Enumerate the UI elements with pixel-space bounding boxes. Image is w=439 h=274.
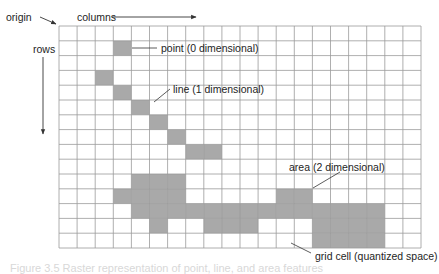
- line-label: line (1 dimensional): [173, 84, 264, 95]
- area-cell: [349, 233, 367, 248]
- line-cell: [150, 115, 168, 130]
- area-cell: [294, 189, 312, 204]
- area-cell: [312, 233, 330, 248]
- area-cell: [349, 204, 367, 219]
- area-cell: [204, 204, 222, 219]
- area-cell: [367, 233, 385, 248]
- point-label: point (0 dimensional): [161, 43, 258, 54]
- area-cell: [168, 174, 186, 189]
- columns-label: columns: [77, 12, 116, 23]
- area-cell: [331, 233, 349, 248]
- origin-arrow-icon: [40, 17, 56, 24]
- rows-label: rows: [33, 44, 55, 55]
- grid-cell-label: grid cell (quantized space): [315, 251, 438, 262]
- area-cell: [349, 218, 367, 233]
- area-cell: [150, 189, 168, 204]
- point-cell: [113, 41, 131, 56]
- area-cell: [150, 174, 168, 189]
- line-cell: [95, 70, 113, 85]
- area-cell: [204, 218, 222, 233]
- area-cell: [222, 204, 240, 219]
- area-cell: [367, 204, 385, 219]
- area-cell: [222, 218, 240, 233]
- area-cell: [331, 204, 349, 219]
- area-cell: [367, 218, 385, 233]
- area-cell: [150, 204, 168, 219]
- grid-lines: [59, 26, 421, 248]
- area-cell: [294, 204, 312, 219]
- line-cell: [131, 100, 149, 115]
- area-cell: [131, 174, 149, 189]
- area-cell: [240, 218, 258, 233]
- area-cell: [131, 189, 149, 204]
- area-cell: [331, 218, 349, 233]
- area-cell: [186, 204, 204, 219]
- area-cell: [312, 218, 330, 233]
- line-cell: [168, 130, 186, 145]
- figure-caption: Figure 3.5 Raster representation of poin…: [10, 262, 323, 274]
- line-cell: [186, 144, 204, 159]
- area-cell: [258, 204, 276, 219]
- area-cell: [240, 204, 258, 219]
- area-cell: [168, 189, 186, 204]
- area-cell: [113, 189, 131, 204]
- area-cell: [312, 204, 330, 219]
- area-cell: [131, 204, 149, 219]
- origin-label: origin: [6, 12, 32, 23]
- area-label: area (2 dimensional): [289, 162, 385, 173]
- area-cell: [168, 204, 186, 219]
- line-cell: [113, 85, 131, 100]
- area-cell: [276, 189, 294, 204]
- line-cell: [204, 144, 222, 159]
- area-cell: [150, 218, 168, 233]
- area-cell: [276, 204, 294, 219]
